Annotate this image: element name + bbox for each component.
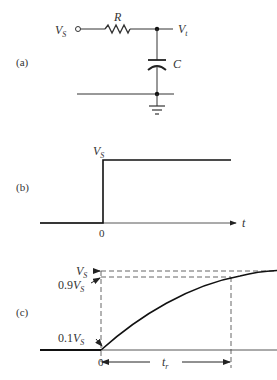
v10-pointer-arrow: [96, 339, 102, 346]
panel-a-label: (a): [16, 56, 29, 69]
panel-c-label: (c): [16, 306, 29, 319]
input-voltage-label: VS: [55, 23, 66, 39]
rc-step-response-figure: (a) VS R Vt C (b) VS 0 t (c): [0, 0, 277, 380]
exponential-response-curve: [101, 271, 277, 351]
v90-pointer-arrow: [91, 278, 100, 283]
time-axis-label: t: [242, 216, 246, 230]
resistor-icon: [105, 25, 130, 33]
v90-label: 0.9VS: [58, 278, 84, 294]
rise-time-label: tr: [162, 355, 169, 371]
capacitor-label: C: [173, 57, 182, 71]
zero-label: 0: [99, 227, 105, 239]
step-level-label: VS: [93, 144, 104, 160]
step-waveform: [40, 160, 231, 223]
ground-icon: [149, 106, 165, 114]
resistor-label: R: [113, 10, 122, 24]
output-voltage-label: Vt: [178, 22, 188, 38]
panel-b-label: (b): [16, 181, 29, 194]
panel-b-step-input: (b) VS 0 t: [16, 144, 246, 239]
panel-a-circuit: (a) VS R Vt C: [16, 10, 188, 114]
panel-c-step-response: (c) VS 0.9VS 0.1VS 0 tr: [16, 264, 277, 371]
v10-label: 0.1VS: [58, 331, 84, 347]
input-terminal-icon: [76, 27, 81, 32]
